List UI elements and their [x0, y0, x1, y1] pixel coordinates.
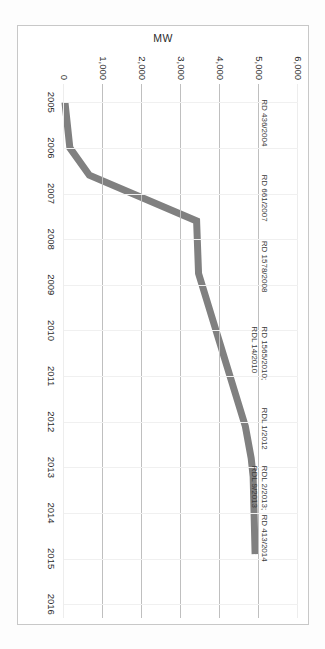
y-gridline: [297, 84, 298, 618]
rotated-figure-wrapper: MW 01,0002,0003,0004,0005,0006,000200520…: [17, 25, 309, 625]
chart-figure: MW 01,0002,0003,0004,0005,0006,000200520…: [17, 25, 309, 625]
chart-annotation: RDL 1/2012: [258, 407, 268, 449]
x-axis-tick-label: 2008: [46, 228, 57, 249]
x-axis-tick-label: 2009: [46, 274, 57, 295]
x-axis-tick-label: 2011: [46, 365, 57, 385]
chart-annotation-line: RD 413/2014: [258, 514, 268, 561]
chart-annotation-line: RDL 1/2012: [258, 407, 268, 449]
x-axis-tick-label: 2007: [46, 182, 57, 203]
chart-annotation: RD 1578/2008: [258, 240, 268, 292]
x-gridline: [64, 513, 298, 514]
y-gridline: [180, 84, 181, 618]
y-axis-tick-label: 3,000: [175, 26, 186, 80]
x-axis-tick-label: 2010: [46, 319, 57, 340]
chart-annotation: RD 436/2004: [258, 99, 268, 146]
chart-annotation: RDL 2/2013;RDL 9/2013: [248, 465, 268, 510]
x-gridline: [64, 147, 298, 148]
chart-annotation-line: RD 436/2004: [258, 99, 268, 146]
chart-annotation: RD 661/2007: [258, 174, 268, 221]
y-axis-tick-label: 5,000: [253, 26, 264, 80]
x-axis-tick-label: 2005: [46, 91, 57, 112]
chart-annotation-line: RDL 9/2013: [248, 465, 258, 510]
y-gridline: [141, 84, 142, 618]
chart-annotation-line: RDL 14/2010: [248, 326, 258, 380]
x-axis-tick-label: 2016: [46, 593, 57, 614]
x-axis-tick-label: 2006: [46, 137, 57, 158]
chart-annotation: RD 413/2014: [258, 514, 268, 561]
y-axis-tick-label: 6,000: [292, 26, 303, 80]
x-gridline: [64, 604, 298, 605]
x-axis-tick-label: 2013: [46, 456, 57, 477]
y-axis-tick-label: 0: [58, 26, 69, 80]
chart-annotation-line: RDL 2/2013;: [258, 465, 268, 510]
chart-annotation-line: RD 1578/2008: [258, 240, 268, 292]
plot-area: 01,0002,0003,0004,0005,0006,000200520062…: [64, 84, 298, 618]
chart-annotation: RD 1565/2010;RDL 14/2010: [248, 326, 268, 380]
screenshot-page: MW 01,0002,0003,0004,0005,0006,000200520…: [0, 0, 325, 649]
y-axis-tick-label: 2,000: [136, 26, 147, 80]
y-axis-tick-label: 4,000: [214, 26, 225, 80]
x-axis-tick-label: 2014: [46, 502, 57, 523]
x-gridline: [64, 239, 298, 240]
x-axis-tick-label: 2015: [46, 548, 57, 569]
y-gridline: [219, 84, 220, 618]
y-gridline: [102, 84, 103, 618]
y-gridline: [63, 84, 64, 618]
x-axis-tick-label: 2012: [46, 411, 57, 432]
y-axis-tick-label: 1,000: [97, 26, 108, 80]
chart-annotation-line: RD 661/2007: [258, 174, 268, 221]
chart-annotation-line: RD 1565/2010;: [258, 326, 268, 380]
y-axis-title: MW: [153, 31, 172, 43]
